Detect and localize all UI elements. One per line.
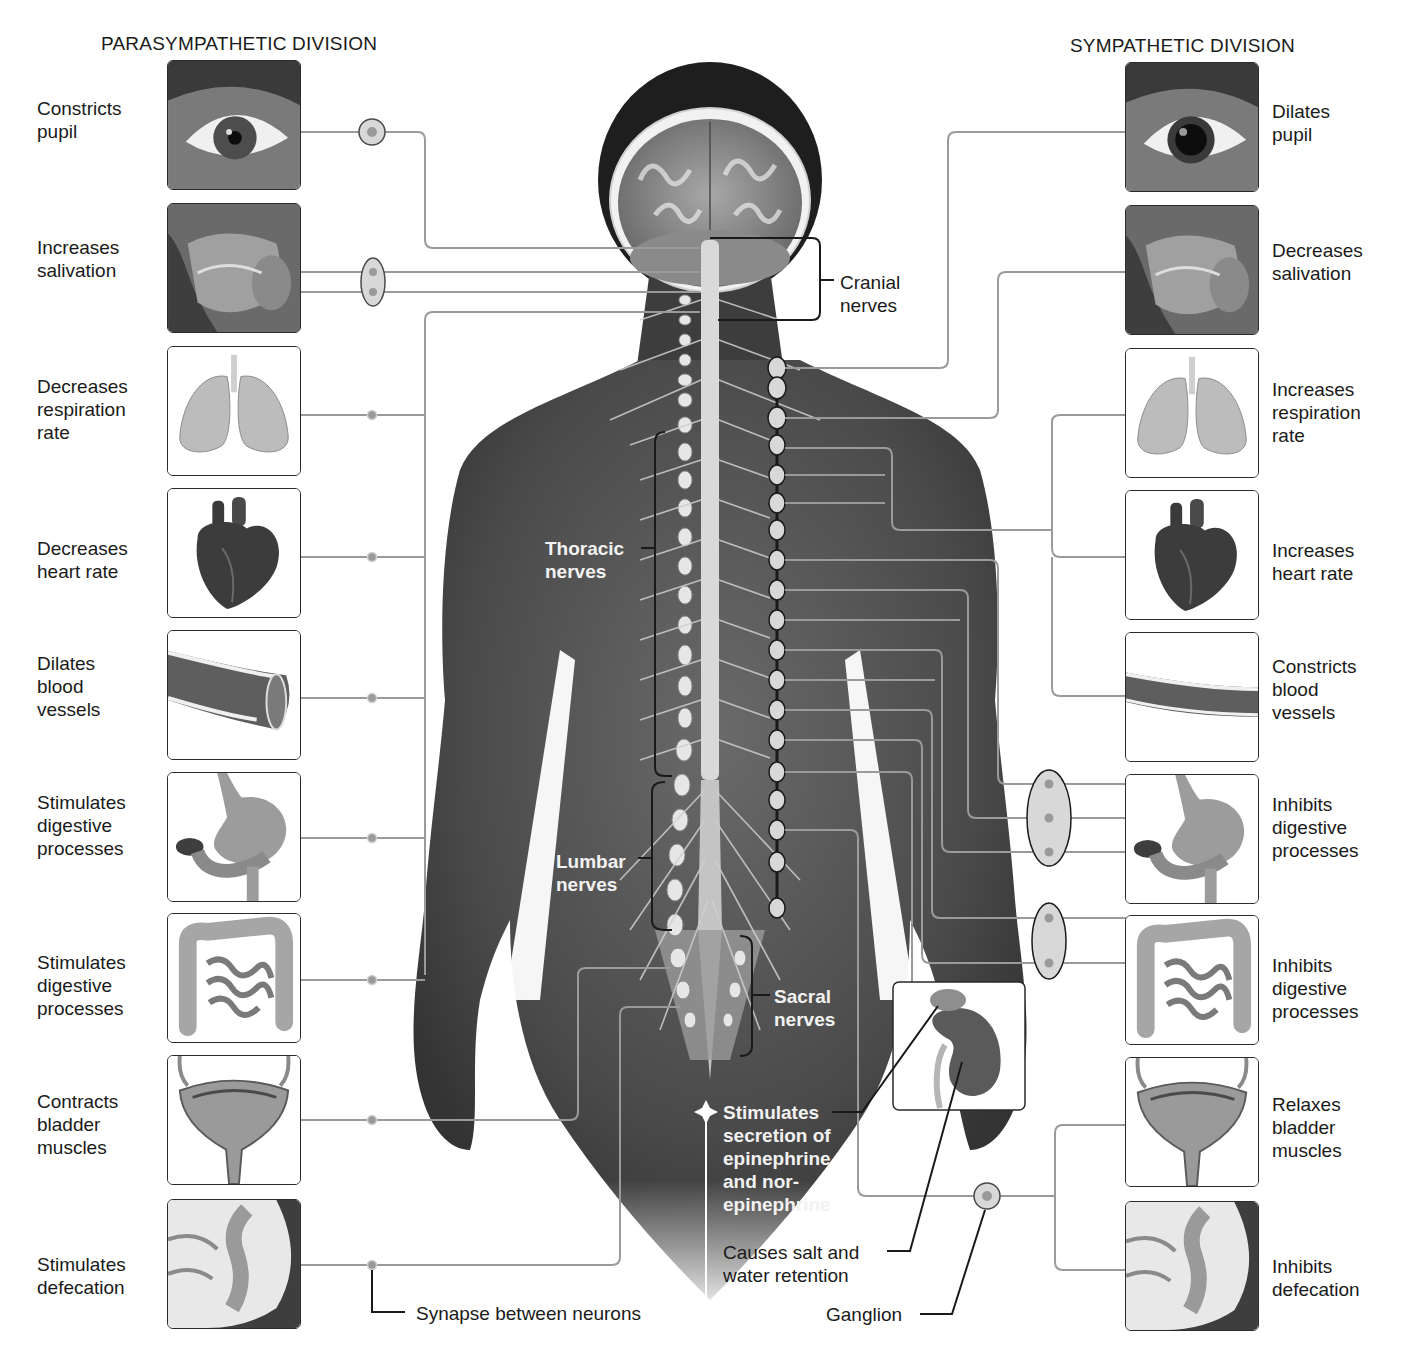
salivary-gland-icon [168, 204, 300, 332]
symp-effect-pupil: Dilates pupil [1272, 100, 1330, 146]
lungs-icon [168, 347, 300, 475]
lungs-image-sympathetic [1125, 348, 1259, 478]
intestines-icon [168, 914, 300, 1042]
lungs-image [167, 346, 301, 476]
para-effect-pupil: Constricts pupil [37, 97, 121, 143]
stomach-image [167, 772, 301, 902]
kidney-inset [893, 982, 1025, 1110]
stomach-image-sympathetic [1125, 774, 1259, 904]
para-effect-defecation: Stimulates defecation [37, 1253, 126, 1299]
sacral-nerves-label: Sacral nerves [774, 985, 835, 1031]
parasympathetic-ganglia [359, 119, 385, 1270]
bladder-image [167, 1055, 301, 1185]
eye-icon [168, 61, 300, 189]
intestines-image-sympathetic [1125, 915, 1259, 1045]
lumbar-nerves-label: Lumbar nerves [556, 850, 626, 896]
cranial-nerves-label: Cranial nerves [840, 271, 900, 317]
bladder-icon [168, 1056, 300, 1184]
para-effect-vessels: Dilates blood vessels [37, 652, 100, 721]
rectum-image [167, 1199, 301, 1329]
para-effect-bladder: Contracts bladder muscles [37, 1090, 118, 1159]
sympathetic-title: SYMPATHETIC DIVISION [1070, 35, 1295, 57]
symp-effect-respiration: Increases respiration rate [1272, 378, 1361, 447]
para-effect-intestines: Stimulates digestive processes [37, 951, 126, 1020]
salivary-glands-image-sympathetic [1125, 205, 1259, 335]
rectum-icon [168, 1200, 300, 1328]
symp-effect-vessels: Constricts blood vessels [1272, 655, 1356, 724]
para-effect-heart: Decreases heart rate [37, 537, 128, 583]
stomach-icon [168, 773, 300, 901]
bladder-image-sympathetic [1125, 1057, 1259, 1187]
heart-image [167, 488, 301, 618]
salivary-glands-image [167, 203, 301, 333]
symp-effect-salivation: Decreases salivation [1272, 239, 1363, 285]
heart-image-sympathetic [1125, 490, 1259, 620]
synapse-annotation: Synapse between neurons [416, 1302, 641, 1325]
autonomic-nervous-system-diagram: PARASYMPATHETIC DIVISION SYMPATHETIC DIV… [0, 0, 1401, 1356]
blood-vessel-image [167, 630, 301, 760]
bladder-icon [1126, 1058, 1258, 1186]
blood-vessel-image-sympathetic [1125, 632, 1259, 762]
thoracic-nerves-label: Thoracic nerves [545, 537, 624, 583]
eye-image-sympathetic [1125, 62, 1259, 192]
para-effect-respiration: Decreases respiration rate [37, 375, 128, 444]
rectum-icon [1126, 1202, 1258, 1330]
eye-image [167, 60, 301, 190]
eye-icon [1126, 63, 1258, 191]
lungs-icon [1126, 349, 1258, 477]
symp-effect-bladder: Relaxes bladder muscles [1272, 1093, 1342, 1162]
symp-effect-defecation: Inhibits defecation [1272, 1255, 1360, 1301]
symp-effect-intestines: Inhibits digestive processes [1272, 954, 1359, 1023]
blood-vessel-icon [168, 631, 300, 759]
symp-effect-heart: Increases heart rate [1272, 539, 1354, 585]
parasympathetic-title: PARASYMPATHETIC DIVISION [101, 33, 377, 55]
heart-icon [168, 489, 300, 617]
symp-effect-stomach: Inhibits digestive processes [1272, 793, 1359, 862]
kidney-annotation: Causes salt and water retention [723, 1241, 859, 1287]
para-effect-stomach: Stimulates digestive processes [37, 791, 126, 860]
adrenal-annotation: Stimulates secretion of epinephrine and … [723, 1101, 831, 1216]
ganglion-annotation: Ganglion [826, 1303, 902, 1326]
blood-vessel-icon [1126, 633, 1258, 761]
intestines-image [167, 913, 301, 1043]
stomach-icon [1126, 775, 1258, 903]
rectum-image-sympathetic [1125, 1201, 1259, 1331]
para-effect-salivation: Increases salivation [37, 236, 119, 282]
heart-icon [1126, 491, 1258, 619]
salivary-gland-icon [1126, 206, 1258, 334]
intestines-icon [1126, 916, 1258, 1044]
